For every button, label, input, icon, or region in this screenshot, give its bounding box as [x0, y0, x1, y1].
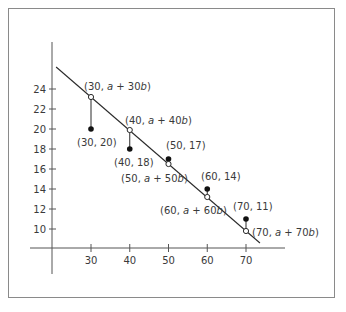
observed-point-label: (40, 18): [114, 157, 154, 168]
observed-point-label: (50, 17): [166, 140, 206, 151]
y-tick-label: 16: [33, 164, 46, 175]
fitted-point-label: (50, a + 50b): [121, 173, 188, 184]
observed-point-label: (60, 14): [201, 171, 241, 182]
point-labels: (30, 20)(40, 18)(50, 17)(60, 14)(70, 11)…: [77, 81, 319, 238]
regression-plot: 10121416182022243040506070 (30, 20)(40, …: [0, 0, 346, 312]
observed-point-label: (70, 11): [233, 201, 273, 212]
x-tick-label: 70: [240, 255, 253, 266]
fitted-line: [56, 67, 260, 243]
x-tick-label: 40: [123, 255, 136, 266]
y-tick-label: 24: [33, 84, 46, 95]
y-tick-label: 18: [33, 144, 46, 155]
regression-line: [56, 67, 260, 243]
fitted-point: [127, 127, 132, 132]
fitted-point-label: (40, a + 40b): [125, 115, 192, 126]
y-tick-label: 22: [33, 104, 46, 115]
fitted-point-label: (30, a + 30b): [84, 81, 151, 92]
x-tick-label: 60: [201, 255, 214, 266]
fitted-point-label: (70, a + 70b): [252, 227, 319, 238]
fitted-point-label: (60, a + 60b): [160, 205, 227, 216]
y-tick-label: 10: [33, 224, 46, 235]
x-tick-label: 50: [162, 255, 175, 266]
fitted-point: [205, 194, 210, 199]
x-tick-label: 30: [85, 255, 98, 266]
y-tick-label: 12: [33, 204, 46, 215]
observed-point: [88, 126, 94, 132]
fitted-point: [166, 161, 171, 166]
fitted-point: [243, 228, 248, 233]
observed-point: [204, 186, 210, 192]
y-tick-label: 20: [33, 124, 46, 135]
observed-point: [243, 216, 249, 222]
fitted-point: [88, 94, 93, 99]
observed-point: [127, 146, 133, 152]
observed-point-label: (30, 20): [77, 137, 117, 148]
y-tick-label: 14: [33, 184, 46, 195]
